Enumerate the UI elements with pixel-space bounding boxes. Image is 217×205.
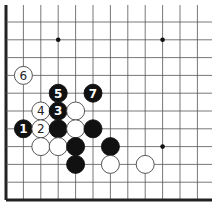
move-number-label: 1 [19, 122, 27, 136]
stone-disc [49, 120, 67, 138]
go-board-diagram: 6574312 [0, 0, 217, 205]
stone-disc [67, 120, 85, 138]
stone-disc [67, 155, 85, 173]
stone-disc [67, 138, 85, 156]
star-point [56, 38, 61, 43]
stone-disc [101, 155, 119, 173]
black-stone-move-7: 7 [84, 84, 102, 102]
move-number-label: 5 [54, 87, 62, 101]
black-stone [49, 120, 67, 138]
stone-disc [32, 138, 50, 156]
black-stone-move-1: 1 [14, 120, 32, 138]
white-stone-move-6: 6 [14, 66, 32, 84]
black-stone-move-5: 5 [49, 84, 67, 102]
move-number-label: 4 [37, 104, 45, 118]
white-stone [49, 138, 67, 156]
white-stone [67, 102, 85, 120]
star-point [160, 144, 165, 149]
black-stone-move-3: 3 [49, 102, 67, 120]
white-stone-move-4: 4 [32, 102, 50, 120]
black-stone [67, 155, 85, 173]
white-stone [136, 155, 154, 173]
white-stone [101, 155, 119, 173]
black-stone [84, 120, 102, 138]
black-stone [67, 138, 85, 156]
stone-disc [101, 138, 119, 156]
black-stone [101, 138, 119, 156]
star-point [160, 38, 165, 43]
stone-disc [84, 120, 102, 138]
stone-disc [136, 155, 154, 173]
white-stone [32, 138, 50, 156]
stone-disc [49, 138, 67, 156]
move-number-label: 2 [37, 122, 45, 136]
move-number-label: 3 [54, 104, 62, 118]
white-stone [67, 120, 85, 138]
move-number-label: 6 [20, 69, 28, 83]
move-number-label: 7 [89, 87, 97, 101]
white-stone-move-2: 2 [32, 120, 50, 138]
stones: 6574312 [14, 66, 154, 173]
stone-disc [67, 102, 85, 120]
